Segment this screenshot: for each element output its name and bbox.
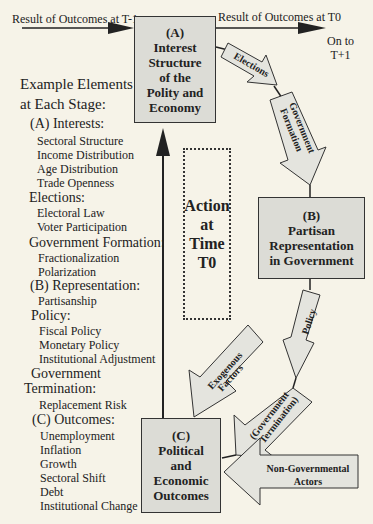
action-line: at [200, 215, 213, 234]
list-item: Institutional Change [40, 499, 138, 514]
box-c-line: (C) [172, 428, 190, 443]
box-a-interest-structure: (A) Interest Structure of the Polity and… [134, 16, 216, 123]
list-item: (B) Representation: [30, 278, 140, 294]
current-outcomes-label: Result of Outcomes at T0 [218, 10, 341, 25]
next-period-label: On to T+1 [327, 34, 354, 62]
arrow-government-formation: Government Formation [270, 92, 326, 185]
list-item: Growth [40, 457, 77, 472]
action-line: Time [189, 234, 224, 253]
box-c-line: Outcomes [153, 488, 209, 503]
list-item: Voter Participation [37, 220, 127, 235]
list-item: Fractionalization [38, 251, 119, 266]
box-a-line: (A) [166, 25, 184, 40]
previous-outcomes-label: Result of Outcomes at T-1 [12, 12, 138, 27]
list-item: Policy: [31, 308, 71, 324]
list-item: Termination: [24, 381, 96, 397]
box-c-line: and [171, 458, 192, 473]
box-c-outcomes: (C) Political and Economic Outcomes [141, 418, 221, 513]
action-line: Action [184, 196, 229, 215]
list-item: Income Distribution [37, 148, 134, 163]
list-item: Fiscal Policy [39, 324, 101, 339]
list-item: (C) Outcomes: [32, 412, 115, 428]
list-item: Debt [40, 485, 63, 500]
list-item: Partisanship [38, 294, 97, 309]
action-at-time-box: Action at Time T0 [183, 148, 231, 320]
box-a-line: Interest [153, 40, 196, 55]
list-item: Government Formation: [29, 235, 165, 251]
arrow-outcomes-to-interests [156, 128, 170, 418]
non-governmental-label-2: Actors [294, 476, 322, 487]
elements-list-title-2: at Each Stage: [20, 96, 106, 113]
list-item: Elections: [29, 190, 85, 206]
box-a-line: Economy [149, 100, 201, 115]
list-item: Electoral Law [37, 206, 105, 221]
box-c-line: Economic [154, 473, 209, 488]
box-b-partisan-representation: (B) Partisan Representation in Governmen… [258, 197, 365, 279]
elements-list-title-1: Example Elements [20, 76, 133, 93]
box-b-line: Partisan [288, 223, 335, 238]
list-item: Trade Openness [37, 176, 114, 191]
list-item: Institutional Adjustment [39, 352, 155, 367]
next-period-line-2: T+1 [327, 48, 354, 62]
list-item: Monetary Policy [39, 338, 119, 353]
list-item: Inflation [40, 443, 81, 458]
box-c-line: Political [158, 443, 204, 458]
arrow-policy: Policy [283, 290, 320, 378]
arrow-exogenous-factors: Exogenous Factors [189, 325, 263, 417]
list-item: (A) Interests: [30, 116, 104, 132]
list-item: Unemployment [40, 429, 115, 444]
list-item: Age Distribution [37, 162, 118, 177]
list-item: Sectoral Structure [37, 134, 123, 149]
arrow-elections: Elections [221, 43, 277, 85]
arrow-government-termination: (Government Termination) [234, 388, 312, 458]
list-item: Government [31, 366, 101, 382]
box-b-line: (B) [303, 208, 320, 223]
box-b-line: in Government [269, 253, 353, 268]
box-a-line: Structure [148, 55, 201, 70]
list-item: Sectoral Shift [40, 471, 106, 486]
list-item: Replacement Risk [39, 398, 127, 413]
next-period-line-1: On to [327, 34, 354, 48]
non-governmental-label-1: Non-Governmental [267, 463, 350, 474]
box-a-line: Polity and [147, 85, 204, 100]
box-a-line: of the [159, 70, 190, 85]
action-line: T0 [198, 253, 217, 272]
box-b-line: Representation [269, 238, 353, 253]
